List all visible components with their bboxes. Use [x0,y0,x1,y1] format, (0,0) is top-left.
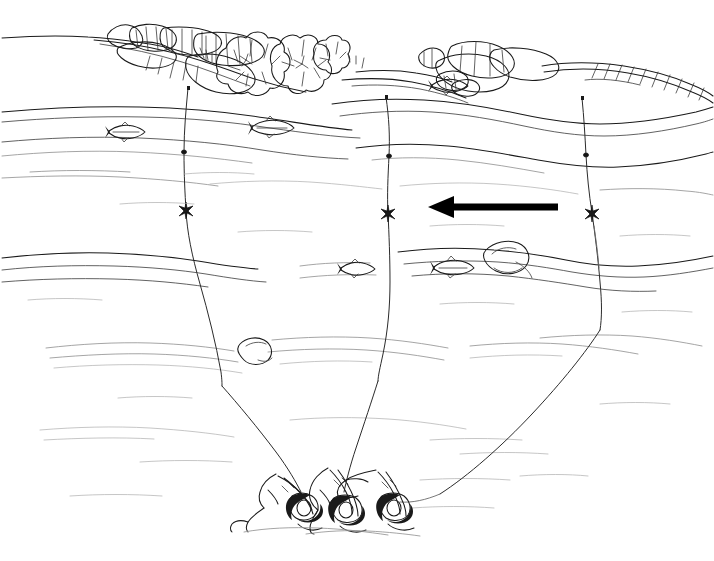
line-knot-bead [583,153,588,157]
line-knot-bead [386,154,391,158]
illustration-canvas [0,0,714,561]
line-knot-bead [181,150,186,154]
figure-root: Set-line (trotline) rig anchored on a ri… [0,0,714,561]
canvas-background [0,0,714,561]
